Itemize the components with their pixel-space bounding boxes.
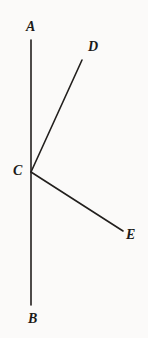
vertex-label-d: D — [88, 40, 98, 54]
geometry-figure: A B C D E — [0, 0, 148, 338]
vertex-label-c: C — [13, 164, 22, 178]
vertex-label-b: B — [28, 312, 37, 326]
vertex-label-a: A — [26, 20, 35, 34]
vertex-label-e: E — [126, 228, 135, 242]
